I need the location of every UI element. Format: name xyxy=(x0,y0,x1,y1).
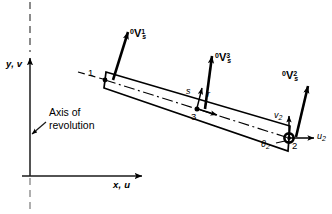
local-axis-s-label: s xyxy=(186,86,191,96)
dof-theta2-leader xyxy=(276,141,285,143)
director-vector-node-2-label: 0V2s xyxy=(282,69,298,83)
axis-of-revolution-annotation: Axis of revolution xyxy=(49,106,95,132)
dof-u2-label: u2 xyxy=(317,131,326,143)
director-2-subscript: s xyxy=(294,75,298,82)
node-2-label: 2 xyxy=(292,141,297,152)
node-1-marker xyxy=(103,78,108,83)
director-vector-node-2-arrow xyxy=(296,86,308,137)
director-3-subscript: s xyxy=(227,57,231,64)
figure-canvas: y, v x, u Axis of revolution 1 3 2 0V1s … xyxy=(0,0,332,214)
dof-theta2-label: θ2 xyxy=(261,139,270,151)
dof-v2-label: v2 xyxy=(274,110,282,122)
director-vector-node-1-arrow xyxy=(113,32,128,80)
x-axis-label: x, u xyxy=(113,180,130,191)
dof-u2-subscript: 2 xyxy=(322,135,326,142)
local-axis-s-arrow xyxy=(197,88,202,108)
director-vector-node-3-arrow xyxy=(205,56,212,109)
local-axis-r-label: r xyxy=(207,89,210,99)
director-vector-node-1-label: 0V1s xyxy=(130,27,146,41)
axis-annotation-line-2: revolution xyxy=(49,119,95,132)
dof-v2-subscript: 2 xyxy=(279,114,283,121)
axis-annotation-line-1: Axis of xyxy=(49,106,95,119)
director-vector-node-3-label: 0V3s xyxy=(215,51,231,65)
axis-annotation-leader xyxy=(32,122,46,134)
director-1-subscript: s xyxy=(142,33,146,40)
dof-theta2-subscript: 2 xyxy=(266,143,270,150)
y-axis-label: y, v xyxy=(6,59,22,70)
node-1-label: 1 xyxy=(88,68,93,79)
node-3-label: 3 xyxy=(191,112,196,123)
local-axis-r-arrow xyxy=(198,109,217,115)
